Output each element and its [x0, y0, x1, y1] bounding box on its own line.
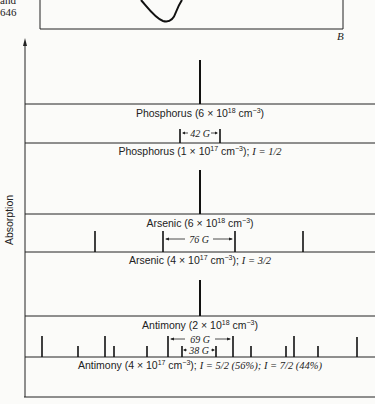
x-axis-label-b: B	[337, 30, 344, 42]
label-arsenic-4e17: Arsenic (4 × 1017 cm−3); I = 3/2	[129, 254, 272, 266]
label-phosphorus-1e17: Phosphorus (1 × 1017 cm−3); I = 1/2	[118, 145, 282, 157]
panel-arsenic-4e17: 76 G Arsenic (4 × 1017 cm−3); I = 3/2	[25, 231, 375, 266]
panel-phosphorus-6e18: Phosphorus (6 × 1018 cm−3)	[25, 60, 375, 119]
y-axis: Absorption	[3, 38, 27, 397]
panel-antimony-4e17: 69 G 38 G Antimony (4 × 1017 cm−3); I = …	[25, 334, 375, 372]
splitting-42g: 42 G	[190, 128, 210, 139]
label-phosphorus-6e18: Phosphorus (6 × 1018 cm−3)	[136, 107, 264, 119]
axis-arrow-icon	[23, 38, 27, 46]
caption-fragment-line2: 646	[0, 6, 17, 18]
top-panel: B	[40, 0, 344, 42]
y-axis-label: Absorption	[3, 195, 15, 245]
derivative-curve	[141, 0, 182, 21]
panel-arsenic-6e18: Arsenic (6 × 1018 cm−3)	[25, 170, 375, 229]
label-antimony-2e18: Antimony (2 × 1018 cm−3)	[142, 319, 258, 331]
splitting-76g: 76 G	[189, 234, 209, 245]
label-arsenic-6e18: Arsenic (6 × 1018 cm−3)	[146, 217, 253, 229]
label-antimony-4e17: Antimony (4 × 1017 cm−3); I = 5/2 (56%);…	[78, 359, 323, 372]
splitting-38g: 38 G	[188, 345, 209, 356]
panel-antimony-2e18: Antimony (2 × 1018 cm−3)	[25, 280, 375, 331]
splitting-69g: 69 G	[190, 334, 210, 345]
panel-phosphorus-1e17: 42 G Phosphorus (1 × 1017 cm−3); I = 1/2	[25, 128, 375, 157]
esr-spectra-figure: and 646 B Absorption Phosphorus (6 × 101…	[0, 0, 375, 404]
